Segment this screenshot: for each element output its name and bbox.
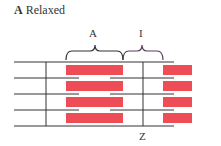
a-band-brace bbox=[66, 45, 123, 60]
i-band-brace bbox=[123, 45, 163, 60]
sarcomere-diagram bbox=[0, 0, 221, 146]
